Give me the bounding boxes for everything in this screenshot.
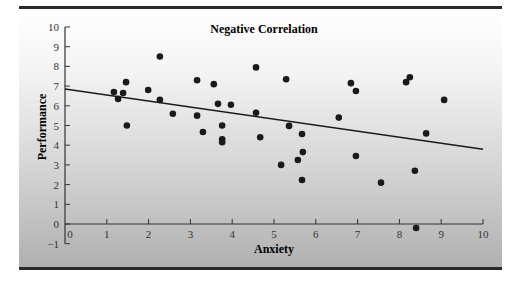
- data-point: [413, 225, 420, 232]
- data-point: [111, 89, 118, 96]
- data-point: [299, 131, 306, 138]
- y-tick-label: 2: [54, 179, 60, 191]
- data-point: [353, 153, 360, 160]
- y-tick-label: −1: [47, 238, 59, 250]
- x-tick-label: 4: [229, 228, 235, 240]
- data-point: [211, 81, 218, 88]
- data-point: [115, 96, 122, 103]
- data-point: [423, 130, 430, 137]
- data-point: [335, 114, 342, 121]
- x-tick-label: 9: [438, 228, 444, 240]
- x-tick-label: 8: [397, 228, 403, 240]
- data-point: [378, 179, 385, 186]
- data-point: [257, 134, 264, 141]
- data-point: [215, 101, 222, 108]
- data-point: [407, 74, 414, 81]
- y-tick-label: 6: [54, 100, 60, 112]
- y-tick-label: 10: [48, 21, 60, 33]
- data-point: [219, 139, 226, 146]
- data-point: [286, 123, 293, 130]
- data-point: [228, 102, 235, 109]
- x-tick-label: 6: [313, 228, 319, 240]
- y-tick-label: 0: [54, 218, 60, 230]
- data-point: [348, 80, 355, 87]
- y-tick-label: 5: [54, 120, 60, 132]
- data-point: [295, 157, 302, 164]
- x-axis-label: Anxiety: [254, 242, 294, 256]
- y-tick-label: 1: [54, 198, 60, 210]
- data-point: [219, 122, 226, 129]
- x-tick-label: 10: [478, 228, 490, 240]
- y-tick-label: 9: [54, 41, 60, 53]
- data-point: [157, 53, 164, 60]
- scatter-plot: Negative Correlation Performance Anxiety…: [0, 0, 523, 283]
- data-point: [253, 64, 260, 71]
- axes: −1012345678910012345678910: [47, 21, 489, 250]
- data-point: [120, 90, 127, 97]
- y-axis-label: Performance: [35, 93, 49, 160]
- y-tick-label: 4: [54, 139, 60, 151]
- data-point: [412, 168, 419, 175]
- data-point: [157, 97, 164, 104]
- data-point: [300, 149, 307, 156]
- x-tick-label: 1: [104, 228, 110, 240]
- data-point: [194, 112, 201, 119]
- trend-line: [65, 89, 483, 149]
- chart-title: Negative Correlation: [210, 22, 318, 36]
- data-point: [253, 109, 260, 116]
- y-tick-label: 3: [54, 159, 60, 171]
- data-points: [111, 53, 448, 231]
- data-point: [441, 97, 448, 104]
- data-point: [123, 79, 130, 86]
- x-tick-label: 5: [271, 228, 277, 240]
- y-tick-label: 7: [54, 80, 60, 92]
- data-point: [353, 88, 360, 95]
- x-tick-label: 2: [146, 228, 152, 240]
- data-point: [124, 122, 131, 129]
- x-tick-label: 7: [355, 228, 361, 240]
- data-point: [283, 76, 290, 83]
- data-point: [194, 77, 201, 84]
- x-tick-label: 3: [188, 228, 194, 240]
- y-tick-label: 8: [54, 60, 60, 72]
- x-tick-label: 0: [67, 228, 73, 240]
- data-point: [200, 129, 207, 136]
- data-point: [278, 162, 285, 169]
- data-point: [145, 87, 152, 94]
- data-point: [170, 110, 177, 117]
- data-point: [299, 177, 306, 184]
